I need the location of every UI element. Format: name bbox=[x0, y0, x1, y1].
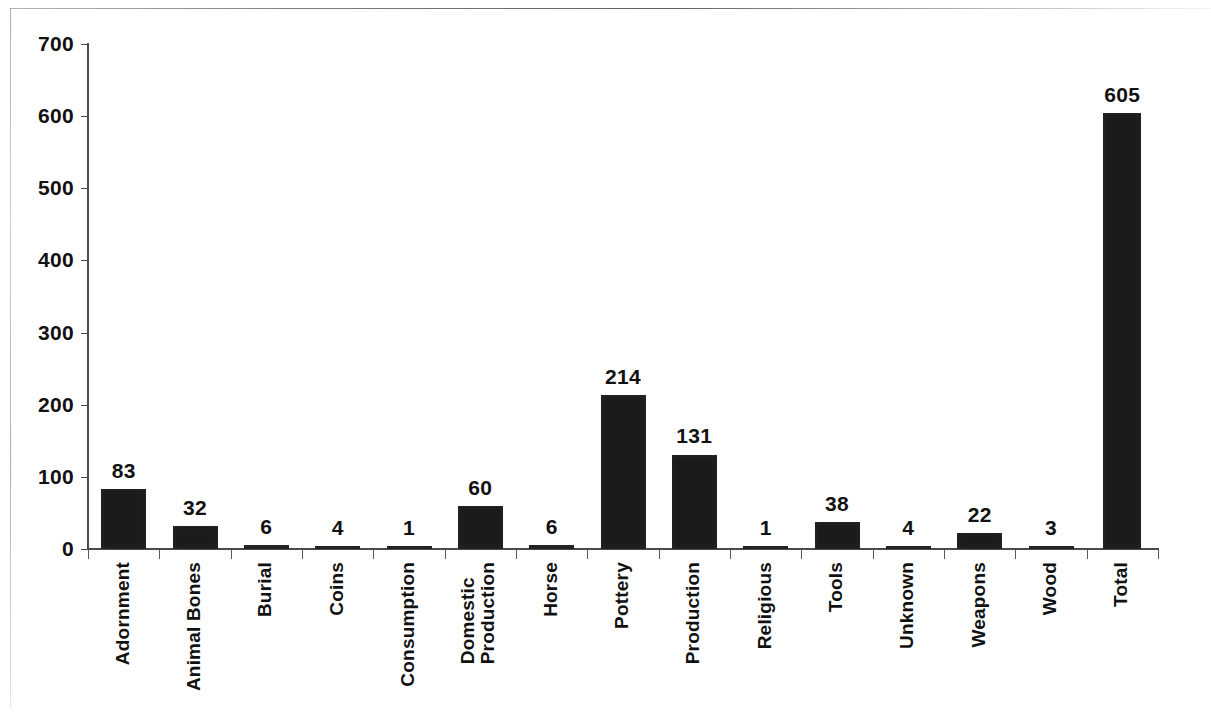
y-axis-tick-label: 500 bbox=[0, 176, 74, 200]
bar bbox=[1103, 113, 1141, 549]
bar bbox=[244, 545, 289, 549]
bar-value-label: 60 bbox=[440, 476, 520, 500]
x-axis-tick bbox=[302, 550, 303, 559]
y-axis-tick-label: 100 bbox=[0, 465, 74, 489]
y-axis-tick-label: 200 bbox=[0, 393, 74, 417]
bar-value-label: 214 bbox=[583, 365, 663, 389]
x-axis-category-label: Weapons bbox=[969, 562, 989, 648]
bar-value-label: 1 bbox=[726, 516, 806, 540]
y-axis-tick-label: 300 bbox=[0, 321, 74, 345]
x-axis-tick bbox=[231, 550, 232, 559]
bar-value-label: 1 bbox=[369, 516, 449, 540]
y-axis-tick-label: 700 bbox=[0, 32, 74, 56]
bar bbox=[101, 489, 146, 549]
bar-value-label: 6 bbox=[512, 515, 592, 539]
bar bbox=[529, 545, 574, 549]
bar-value-label: 32 bbox=[155, 496, 235, 520]
y-axis-tick bbox=[81, 260, 89, 261]
x-axis-category-label: Coins bbox=[327, 562, 347, 616]
plot-area: 7006005004003002001000833264160621413113… bbox=[88, 44, 1158, 549]
bar bbox=[387, 546, 432, 549]
x-axis-tick bbox=[88, 550, 89, 559]
bar-chart: 7006005004003002001000833264160621413113… bbox=[0, 0, 1211, 728]
bar bbox=[957, 533, 1002, 549]
bar bbox=[458, 506, 503, 549]
bar bbox=[886, 546, 931, 549]
x-axis-category-label: Burial bbox=[255, 562, 275, 617]
bar bbox=[815, 522, 860, 549]
x-axis-tick bbox=[159, 550, 160, 559]
bar bbox=[601, 395, 646, 549]
x-axis-tick bbox=[659, 550, 660, 559]
x-axis-category-label: Unknown bbox=[897, 562, 917, 649]
x-axis-tick bbox=[373, 550, 374, 559]
y-axis-tick bbox=[81, 405, 89, 406]
bar-value-label: 22 bbox=[940, 503, 1020, 527]
x-axis-tick bbox=[1158, 550, 1159, 559]
x-axis-category-label: Consumption bbox=[398, 562, 418, 687]
bar-value-label: 83 bbox=[84, 459, 164, 483]
bar-value-label: 3 bbox=[1011, 516, 1091, 540]
y-axis-tick-label: 600 bbox=[0, 104, 74, 128]
bar bbox=[173, 526, 218, 549]
x-axis-category-label: Adornment bbox=[113, 562, 133, 665]
bar bbox=[743, 546, 788, 549]
x-axis-tick bbox=[801, 550, 802, 559]
x-axis-tick bbox=[1087, 550, 1088, 559]
x-axis-category-label: Tools bbox=[826, 562, 846, 612]
x-axis-category-label: Total bbox=[1111, 562, 1131, 607]
bar-value-label: 605 bbox=[1082, 83, 1162, 107]
x-axis-tick bbox=[944, 550, 945, 559]
x-axis-category-label: Domestic Production bbox=[458, 562, 498, 664]
x-axis-category-label: Wood bbox=[1040, 562, 1060, 615]
y-axis-tick bbox=[81, 333, 89, 334]
y-axis-tick-label: 400 bbox=[0, 248, 74, 272]
x-axis-tick bbox=[730, 550, 731, 559]
x-axis-category-label: Animal Bones bbox=[184, 562, 204, 691]
x-axis-tick bbox=[516, 550, 517, 559]
x-axis-category-label: Religious bbox=[755, 562, 775, 649]
bar-value-label: 131 bbox=[654, 424, 734, 448]
bar bbox=[315, 546, 360, 549]
x-axis-tick bbox=[873, 550, 874, 559]
x-axis-category-label: Pottery bbox=[612, 562, 632, 629]
x-axis-tick bbox=[1015, 550, 1016, 559]
x-axis-category-label: Production bbox=[683, 562, 703, 664]
y-axis-tick bbox=[81, 44, 89, 45]
y-axis-tick bbox=[81, 116, 89, 117]
bar-value-label: 4 bbox=[298, 516, 378, 540]
x-axis-category-label: Horse bbox=[541, 562, 561, 617]
bar-value-label: 38 bbox=[797, 492, 877, 516]
bar bbox=[1029, 546, 1074, 549]
y-axis-tick-label: 0 bbox=[0, 537, 74, 561]
y-axis-tick bbox=[81, 188, 89, 189]
bar bbox=[672, 455, 717, 550]
bar-value-label: 6 bbox=[226, 515, 306, 539]
x-axis-tick bbox=[445, 550, 446, 559]
bar-value-label: 4 bbox=[868, 516, 948, 540]
x-axis-tick bbox=[587, 550, 588, 559]
